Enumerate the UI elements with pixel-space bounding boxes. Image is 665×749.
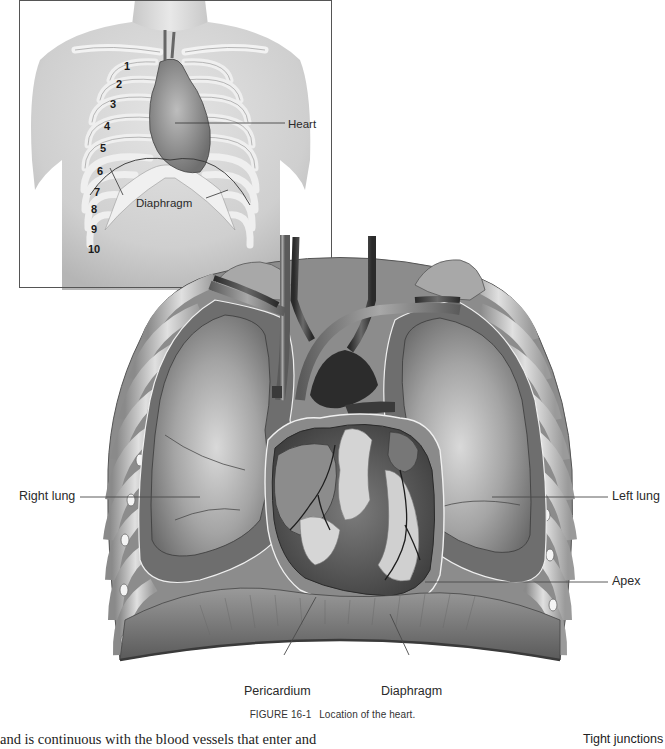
- label-right-lung: Right lung: [19, 489, 75, 503]
- figure-caption-text: Location of the heart.: [319, 709, 415, 720]
- label-pericardium: Pericardium: [244, 684, 311, 698]
- main-illustration: [0, 0, 665, 705]
- label-apex: Apex: [612, 574, 641, 588]
- label-diaphragm: Diaphragm: [381, 684, 442, 698]
- label-left-lung: Left lung: [612, 489, 660, 503]
- main-figure: Right lung Left lung Apex Pericardium Di…: [0, 0, 665, 705]
- side-heading: Tight junctions: [583, 732, 663, 746]
- figure-number: FIGURE 16-1: [250, 709, 312, 720]
- figure-caption: FIGURE 16-1 Location of the heart.: [0, 709, 665, 720]
- body-text-line: and is continuous with the blood vessels…: [0, 731, 316, 748]
